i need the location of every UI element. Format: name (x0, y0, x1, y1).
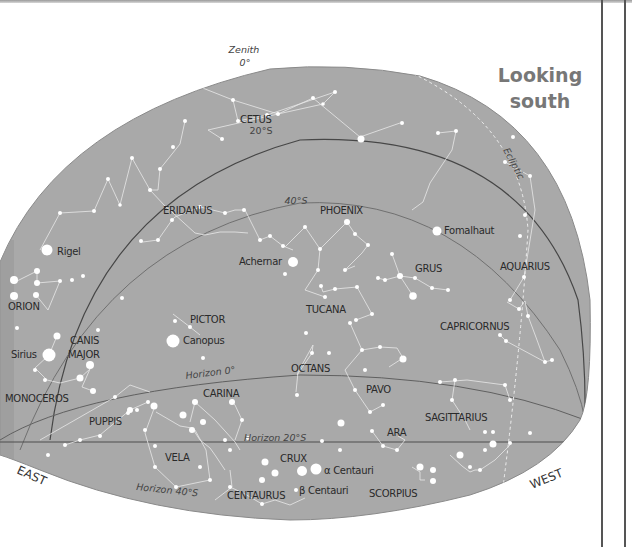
label-ara: ARA (387, 427, 407, 438)
page-border-left (601, 0, 603, 547)
label-cetus: CETUS (240, 114, 272, 125)
label-carina: CARINA (203, 388, 240, 399)
label-canopus: Canopus (183, 335, 224, 346)
label-beta-centauri: β Centauri (299, 485, 348, 496)
label-canis: CANIS (70, 335, 99, 346)
label-aquarius: AQUARIUS (500, 261, 550, 272)
label-pavo: PAVO (366, 384, 391, 395)
star-alpha-centauri (311, 464, 322, 475)
zenith-label: Zenith (228, 44, 260, 55)
label-grus: GRUS (415, 263, 442, 274)
west-label: WEST (528, 466, 566, 492)
label-crux: CRUX (280, 453, 307, 464)
label-phoenix: PHOENIX (320, 205, 363, 216)
star-beta-centauri (297, 466, 307, 476)
label-monoceros: MONOCEROS (5, 393, 69, 404)
label-alpha-centauri: α Centauri (324, 465, 374, 476)
altitude-40s-label: 40°S (285, 195, 308, 206)
label-major: MAJOR (68, 349, 100, 360)
label-fomalhaut: Fomalhaut (444, 225, 495, 236)
star-sirius (43, 349, 56, 362)
label-puppis: PUPPIS (89, 416, 122, 427)
label-vela: VELA (165, 452, 190, 463)
horizon-20s-label: Horizon 20°S (244, 432, 306, 443)
star-canopus (167, 335, 180, 348)
page-title: Looking south (480, 62, 600, 114)
label-tucana: TUCANA (305, 304, 346, 315)
label-sirius: Sirius (11, 349, 37, 360)
title-line-1: Looking (480, 62, 600, 88)
title-line-2: south (480, 88, 600, 114)
label-scorpius: SCORPIUS (369, 488, 417, 499)
sky-dome (0, 67, 590, 520)
star-fomalhaut (433, 227, 442, 236)
page-border-right (624, 0, 626, 547)
label-sagittarius: SAGITTARIUS (425, 412, 487, 423)
zenith-degree-label: 0° (240, 57, 251, 68)
label-orion: ORION (8, 301, 40, 312)
label-capricornus: CAPRICORNUS (440, 321, 509, 332)
label-eridanus: ERIDANUS (163, 205, 212, 216)
label-rigel: Rigel (57, 246, 81, 257)
label-octans: OCTANS (291, 363, 330, 374)
label-centaurus: CENTAURUS (227, 490, 285, 501)
label-pictor: PICTOR (190, 314, 225, 325)
star-achernar (288, 257, 298, 267)
star-rigel (42, 245, 53, 256)
label-achernar: Achernar (239, 256, 283, 267)
altitude-20s-label: 20°S (250, 125, 273, 136)
